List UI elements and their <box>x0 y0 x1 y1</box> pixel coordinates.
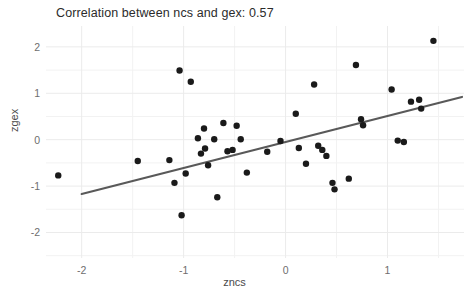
data-point <box>55 172 61 178</box>
y-tick-label: 2 <box>18 41 40 53</box>
data-point <box>188 78 194 84</box>
data-point <box>388 86 394 92</box>
plot-panel <box>46 26 464 258</box>
chart-title: Correlation between ncs and gex: 0.57 <box>56 6 274 20</box>
data-point <box>202 145 208 151</box>
data-point <box>201 125 207 131</box>
data-point <box>430 38 436 44</box>
data-point <box>171 180 177 186</box>
data-point <box>182 170 188 176</box>
y-tick-label: 0 <box>18 134 40 146</box>
data-point <box>135 158 141 164</box>
data-point <box>293 110 299 116</box>
data-point <box>176 67 182 73</box>
data-point <box>244 169 250 175</box>
data-point <box>166 157 172 163</box>
data-point <box>360 122 366 128</box>
data-point <box>277 138 283 144</box>
plot-canvas <box>46 26 464 258</box>
data-point <box>198 150 204 156</box>
data-point <box>229 147 235 153</box>
data-point <box>401 139 407 145</box>
y-tick-label: -1 <box>18 180 40 192</box>
data-points <box>55 38 437 219</box>
data-point <box>346 175 352 181</box>
data-point <box>296 145 302 151</box>
data-point <box>408 98 414 104</box>
data-point <box>264 149 270 155</box>
x-tick-label: -2 <box>77 264 86 276</box>
data-point <box>329 180 335 186</box>
data-point <box>395 137 401 143</box>
data-point <box>233 123 239 129</box>
x-tick-label: 1 <box>385 264 391 276</box>
data-point <box>416 97 422 103</box>
x-tick-label: -1 <box>179 264 188 276</box>
y-tick-label: 1 <box>18 87 40 99</box>
x-tick-label: 0 <box>283 264 289 276</box>
regression-trendline <box>82 97 462 194</box>
data-point <box>358 116 364 122</box>
data-point <box>178 212 184 218</box>
data-point <box>418 105 424 111</box>
data-point <box>205 162 211 168</box>
data-point <box>214 194 220 200</box>
data-point <box>353 62 359 68</box>
x-axis-label: zncs <box>0 276 469 288</box>
data-point <box>311 81 317 87</box>
data-point <box>319 147 325 153</box>
data-point <box>303 161 309 167</box>
data-point <box>220 120 226 126</box>
data-point <box>211 136 217 142</box>
y-tick-label: -2 <box>18 226 40 238</box>
data-point <box>323 153 329 159</box>
scatter-plot-figure: Correlation between ncs and gex: 0.57 -2… <box>0 0 469 294</box>
data-point <box>195 135 201 141</box>
y-axis-label: zgex <box>8 109 20 132</box>
data-point <box>238 136 244 142</box>
data-point <box>331 186 337 192</box>
